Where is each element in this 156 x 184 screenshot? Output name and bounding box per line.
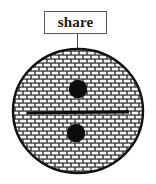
ellipse-svg (11, 47, 145, 175)
callout-label-box[interactable]: share (44, 11, 107, 34)
division-top-dot (69, 80, 87, 98)
diagram-canvas: share (0, 0, 156, 184)
hatched-ellipse[interactable] (11, 47, 145, 175)
division-bottom-dot (67, 124, 85, 142)
callout-label-text: share (58, 15, 94, 30)
